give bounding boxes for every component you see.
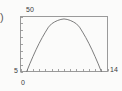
chart-figure: ) 50 5 0 14 bbox=[0, 0, 122, 91]
plot-area bbox=[0, 0, 122, 91]
plot-frame-border bbox=[21, 17, 108, 72]
data-series-parabola bbox=[27, 19, 102, 72]
